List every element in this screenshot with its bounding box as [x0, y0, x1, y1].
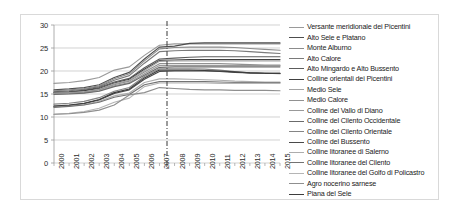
legend-color-swatch: [289, 37, 304, 38]
y-tick-label: 5: [26, 136, 48, 145]
legend-item[interactable]: Agro nocerino sarnese: [289, 179, 439, 189]
legend-color-swatch: [289, 162, 304, 163]
x-tick-label: 2001: [72, 154, 81, 169]
legend-label: Colline del Vallo di Diano: [307, 107, 382, 115]
x-tick-label: 2014: [268, 154, 277, 169]
legend-label: Colline del Cilento Orientale: [307, 128, 392, 136]
x-tick-label: 2004: [117, 154, 126, 169]
legend-color-swatch: [289, 58, 304, 59]
x-tick-label: 2013: [253, 154, 262, 169]
legend-item[interactable]: Versante meridionale dei Picentini: [289, 22, 439, 32]
legend-item[interactable]: Colline litoranee del Golfo di Policastr…: [289, 168, 439, 178]
legend-item[interactable]: Colline orientali dei Picentini: [289, 74, 439, 84]
legend-color-swatch: [289, 194, 304, 195]
x-tick-label: 2006: [147, 154, 156, 169]
legend-label: Medio Calore: [307, 96, 348, 104]
legend-item[interactable]: Alto Sele e Platano: [289, 32, 439, 42]
legend-label: Alto Calore: [307, 55, 341, 63]
y-tick-label: 30: [26, 21, 48, 30]
legend-item[interactable]: Monte Alburno: [289, 43, 439, 53]
legend-label: Colline litoranee di Salerno: [307, 148, 389, 156]
y-tick-label: 15: [26, 90, 48, 99]
legend-label: Alto Sele e Platano: [307, 34, 365, 42]
legend-label: Medio Sele: [307, 86, 341, 94]
legend-item[interactable]: Colline litoranee di Salerno: [289, 147, 439, 157]
y-tick-label: 20: [26, 67, 48, 76]
legend-color-swatch: [289, 48, 304, 49]
legend-label: Agro nocerino sarnese: [307, 180, 376, 188]
legend-color-swatch: [289, 79, 304, 80]
x-tick-label: 2009: [193, 154, 202, 169]
y-tick-label: 25: [26, 44, 48, 53]
legend-color-swatch: [289, 131, 304, 132]
legend-label: Colline litoranee del Cilento: [307, 159, 390, 167]
x-tick-label: 2005: [132, 154, 141, 169]
legend-color-swatch: [289, 183, 304, 184]
legend-item[interactable]: Medio Calore: [289, 95, 439, 105]
legend-item[interactable]: Alto Calore: [289, 53, 439, 63]
legend-label: Colline del Bussento: [307, 138, 370, 146]
legend-item[interactable]: Colline del Vallo di Diano: [289, 106, 439, 116]
legend-item[interactable]: Medio Sele: [289, 85, 439, 95]
legend-color-swatch: [289, 100, 304, 101]
x-tick-label: 2008: [178, 154, 187, 169]
y-tick-label: 10: [26, 113, 48, 122]
legend-color-swatch: [289, 68, 304, 69]
x-tick-label: 2000: [57, 154, 66, 169]
legend-label: Colline orientali dei Picentini: [307, 75, 392, 83]
x-tick-label: 2011: [223, 154, 232, 169]
legend-color-swatch: [289, 121, 304, 122]
legend-item[interactable]: Colline del Cilento Orientale: [289, 126, 439, 136]
plot-area: 051015202530 200020012002200320042005200…: [21, 15, 285, 199]
legend-item[interactable]: Colline del Bussento: [289, 137, 439, 147]
legend-label: Colline del Cilento Occidentale: [307, 117, 400, 125]
legend-color-swatch: [289, 27, 304, 28]
x-tick-label: 2010: [208, 154, 217, 169]
legend-label: Alto Mingardo e Alto Bussento: [307, 65, 399, 73]
legend-item[interactable]: Alto Mingardo e Alto Bussento: [289, 64, 439, 74]
chart-legend: Versante meridionale dei PicentiniAlto S…: [289, 22, 439, 199]
x-tick-label: 2007: [162, 154, 171, 169]
legend-color-swatch: [289, 110, 304, 111]
legend-color-swatch: [289, 89, 304, 90]
x-tick-label: 2002: [87, 154, 96, 169]
chart-svg: [21, 15, 285, 199]
legend-item[interactable]: Colline del Cilento Occidentale: [289, 116, 439, 126]
legend-label: Piana del Sele: [307, 190, 351, 198]
x-tick-label: 2003: [102, 154, 111, 169]
legend-label: Versante meridionale dei Picentini: [307, 23, 410, 31]
legend-label: Colline litoranee del Golfo di Policastr…: [307, 169, 424, 177]
chart-figure: 051015202530 200020012002200320042005200…: [20, 14, 439, 200]
legend-color-swatch: [289, 173, 304, 174]
legend-item[interactable]: Piana del Sele: [289, 189, 439, 199]
x-tick-label: 2012: [238, 154, 247, 169]
legend-color-swatch: [289, 142, 304, 143]
y-tick-label: 0: [26, 159, 48, 168]
legend-item[interactable]: Colline litoranee del Cilento: [289, 158, 439, 168]
legend-color-swatch: [289, 152, 304, 153]
legend-label: Monte Alburno: [307, 44, 351, 52]
